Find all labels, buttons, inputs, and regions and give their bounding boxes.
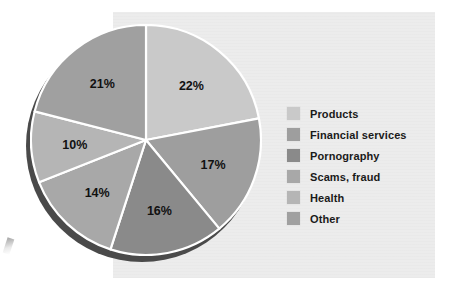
legend-item[interactable]: Financial services: [287, 124, 437, 145]
pie-slice-label: 16%: [147, 204, 172, 218]
legend-item-label: Health: [310, 192, 344, 204]
pie-slice-label: 14%: [85, 186, 110, 200]
legend-color-swatch: [287, 212, 300, 225]
pie-slice-label: 10%: [62, 138, 87, 152]
pie-slice-label: 21%: [90, 77, 115, 91]
pie-chart-figure: 22%17%16%14%10%21% ProductsFinancial ser…: [0, 0, 456, 289]
legend-item-label: Scams, fraud: [310, 171, 380, 183]
legend-item[interactable]: Health: [287, 187, 437, 208]
legend-color-swatch: [287, 107, 300, 120]
legend-item[interactable]: Scams, fraud: [287, 166, 437, 187]
legend-item-label: Pornography: [310, 150, 380, 162]
legend-item[interactable]: Pornography: [287, 145, 437, 166]
legend-item-label: Products: [310, 108, 358, 120]
legend-color-swatch: [287, 191, 300, 204]
chart-legend: ProductsFinancial servicesPornographySca…: [287, 103, 437, 229]
pie-slices-svg: 22%17%16%14%10%21%: [30, 24, 262, 256]
legend-color-swatch: [287, 149, 300, 162]
pie-slice-label: 22%: [179, 79, 204, 93]
scan-artifact-mark: [3, 237, 15, 254]
pie-chart: 22%17%16%14%10%21%: [26, 24, 270, 266]
legend-item[interactable]: Products: [287, 103, 437, 124]
legend-color-swatch: [287, 170, 300, 183]
legend-item[interactable]: Other: [287, 208, 437, 229]
legend-item-label: Other: [310, 213, 340, 225]
legend-color-swatch: [287, 128, 300, 141]
legend-item-label: Financial services: [310, 129, 407, 141]
pie-slice-label: 17%: [201, 158, 226, 172]
